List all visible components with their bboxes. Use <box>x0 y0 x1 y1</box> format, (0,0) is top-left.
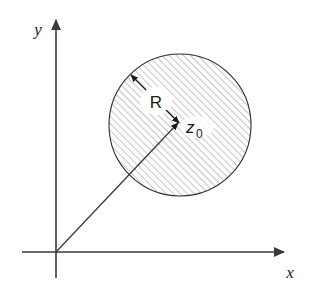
y-axis-label: y <box>32 20 42 39</box>
x-axis-label: x <box>285 263 294 282</box>
complex-plane-diagram: R z 0 y x <box>0 0 310 290</box>
center-label-subscript: 0 <box>196 127 203 141</box>
figure-canvas: R z 0 y x <box>0 0 310 290</box>
center-label-symbol: z <box>185 118 195 137</box>
hatched-disk <box>109 54 251 196</box>
radius-label: R <box>150 93 162 112</box>
disk-hatch-fill <box>109 54 251 196</box>
